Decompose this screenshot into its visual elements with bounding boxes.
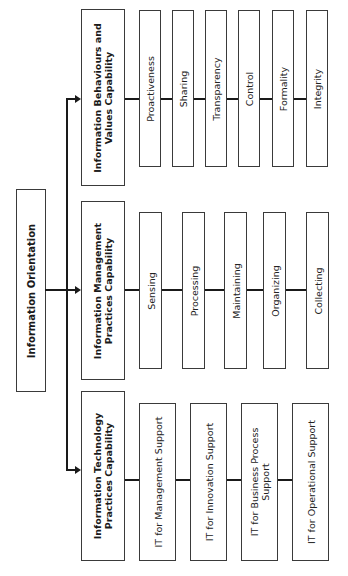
capability-management-practices: Information ManagementPractices Capabili…: [81, 201, 125, 380]
item-label: IT for Operational Support: [305, 420, 316, 544]
root-connector: [45, 289, 75, 291]
capability-label-line2: Practices Capability: [103, 237, 114, 343]
item-label: Organizing: [269, 265, 280, 316]
branch-line-technology: [66, 469, 75, 471]
item-label: Formality: [278, 66, 289, 110]
capability-label-line2: Values Capability: [103, 51, 114, 144]
item-sensing: Sensing: [139, 212, 162, 369]
capability-technology-practices: Information TechnologyPractices Capabili…: [81, 391, 125, 561]
item-sharing: Sharing: [172, 10, 194, 167]
item-label: Collecting: [312, 267, 323, 314]
item-maintaining: Maintaining: [224, 212, 247, 369]
item-collecting: Collecting: [306, 212, 329, 369]
item-it-operational-support: IT for Operational Support: [292, 403, 329, 561]
root-node-information-orientation: Information Orientation: [16, 189, 46, 392]
item-it-management-support: IT for Management Support: [139, 403, 176, 561]
item-label: Maintaining: [230, 263, 241, 319]
item-label: Integrity: [312, 68, 323, 108]
capability-label-line1: Information Management: [92, 222, 103, 358]
item-label: Control: [244, 71, 255, 105]
item-control: Control: [238, 10, 260, 167]
item-it-innovation-support: IT for Innovation Support: [190, 403, 227, 561]
item-formality: Formality: [272, 10, 294, 167]
root-label: Information Orientation: [26, 223, 37, 357]
item-transparency: Transparency: [205, 10, 227, 167]
item-label: Sensing: [145, 272, 156, 310]
item-processing: Processing: [182, 212, 205, 369]
capability-behaviours-values: Information Behaviours andValues Capabil…: [81, 9, 125, 186]
item-it-business-process-support: IT for Business ProcessSupport: [241, 403, 278, 561]
item-organizing: Organizing: [263, 212, 286, 369]
trunk-line: [66, 98, 68, 471]
item-label: Processing: [188, 265, 199, 316]
capability-label-line2: Practices Capability: [103, 423, 114, 529]
item-label: Proactiveness: [145, 56, 156, 122]
branch-line-behaviours: [66, 98, 75, 100]
item-label-line1: IT for Business Process: [249, 428, 260, 537]
item-label: Sharing: [178, 70, 189, 106]
capability-label-line1: Information Behaviours and: [92, 23, 103, 173]
capability-label-line1: Information Technology: [92, 413, 103, 539]
item-label-line2: Support: [260, 463, 271, 501]
item-label: IT for Innovation Support: [203, 423, 214, 542]
item-label: IT for Management Support: [152, 417, 163, 548]
item-proactiveness: Proactiveness: [139, 10, 161, 167]
item-integrity: Integrity: [306, 10, 328, 167]
item-label: Transparency: [211, 57, 222, 120]
